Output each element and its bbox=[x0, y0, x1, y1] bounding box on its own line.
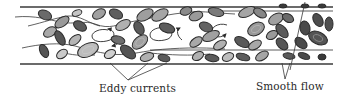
eddy-currents-label: Eddy currents bbox=[99, 82, 176, 94]
eddy-loop-1 bbox=[92, 29, 114, 42]
smooth-pointer-2 bbox=[285, 63, 290, 79]
smooth-flow-label: Smooth flow bbox=[256, 80, 324, 92]
label-pointers bbox=[110, 63, 290, 80]
eddy-pointer-1 bbox=[110, 63, 128, 80]
eddy-loop-4 bbox=[178, 28, 182, 40]
eddy-pointer-2 bbox=[128, 63, 148, 80]
smooth-pointer-1 bbox=[282, 63, 285, 79]
blood-cells bbox=[37, 4, 333, 63]
eddy-pointer-3 bbox=[128, 63, 167, 80]
smooth-flow-direction-line bbox=[290, 2, 305, 70]
vessel-flow-diagram: Eddy currents Smooth flow bbox=[0, 0, 349, 103]
